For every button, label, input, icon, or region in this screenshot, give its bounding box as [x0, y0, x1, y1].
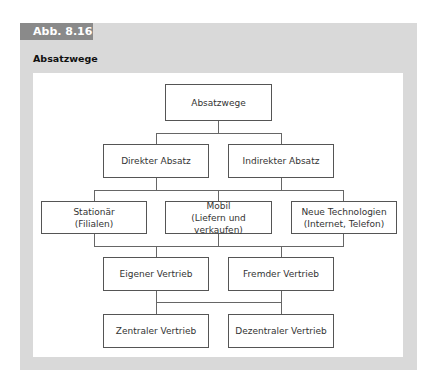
node-neue-technologien: Neue Technologien (Internet, Telefon) [291, 201, 397, 234]
connector [343, 190, 344, 201]
connector [94, 190, 344, 191]
node-label: Mobil [207, 200, 231, 212]
connector [156, 133, 282, 134]
node-sublabel: (Internet, Telefon) [304, 218, 384, 230]
connector [281, 133, 282, 144]
node-label: Eigener Vertrieb [120, 268, 193, 280]
node-dezentraler-vertrieb: Dezentraler Vertrieb [228, 314, 334, 348]
figure-label: Abb. 8.16 [20, 23, 93, 40]
node-sublabel: (Filialen) [75, 218, 113, 230]
node-label: Zentraler Vertrieb [116, 325, 196, 337]
figure-title: Absatzwege [33, 53, 98, 64]
node-label: Indirekter Absatz [243, 155, 320, 167]
node-label: Dezentraler Vertrieb [235, 325, 326, 337]
node-direkter-absatz: Direkter Absatz [103, 144, 209, 178]
connector [156, 302, 282, 303]
node-label: Absatzwege [191, 97, 245, 109]
connector [156, 246, 157, 257]
node-absatzwege: Absatzwege [165, 84, 272, 121]
node-label: Fremder Vertrieb [243, 268, 319, 280]
connector [156, 133, 157, 144]
connector [218, 121, 219, 133]
node-indirekter-absatz: Indirekter Absatz [228, 144, 334, 178]
node-zentraler-vertrieb: Zentraler Vertrieb [103, 314, 209, 348]
node-mobil: Mobil (Liefern und verkaufen) [165, 201, 272, 234]
connector [94, 234, 95, 246]
connector [94, 246, 344, 247]
node-stationaer: Stationär (Filialen) [41, 201, 147, 234]
node-label: Direkter Absatz [121, 155, 191, 167]
node-sublabel: (Liefern und verkaufen) [166, 212, 271, 236]
node-label: Neue Technologien [301, 206, 386, 218]
connector [218, 234, 219, 246]
node-eigener-vertrieb: Eigener Vertrieb [103, 257, 209, 291]
connector [94, 190, 95, 201]
connector [281, 246, 282, 257]
connector [343, 234, 344, 246]
node-fremder-vertrieb: Fremder Vertrieb [228, 257, 334, 291]
connector [281, 178, 282, 190]
connector [156, 178, 157, 190]
node-label: Stationär [73, 206, 114, 218]
